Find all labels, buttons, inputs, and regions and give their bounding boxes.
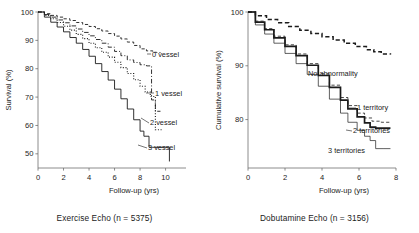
y-tick-label: 90	[235, 61, 243, 70]
y-tick-label: 90	[25, 36, 33, 45]
dobutamine-echo-series-labels: No abnormality1 territory2 territories3 …	[308, 69, 390, 155]
y-tick-label: 80	[235, 115, 243, 124]
y-tick-label: 50	[25, 149, 33, 158]
dobutamine-echo-axes: 809010002468Follow-up (yrs)Cumulative su…	[214, 8, 398, 195]
x-tick-label: 6	[357, 173, 361, 182]
series-label-3-vessel: 3 vessel	[148, 143, 175, 152]
x-tick-label: 6	[112, 173, 116, 182]
x-axis-title: Follow-up (yrs)	[319, 186, 370, 195]
series-label-2-territories: 2 territories	[353, 126, 390, 135]
x-tick-label: 8	[394, 173, 398, 182]
exercise-echo-caption: Exercise Echo (n = 5375)	[0, 213, 209, 223]
x-tick-label: 10	[161, 173, 169, 182]
y-tick-label: 80	[25, 64, 33, 73]
exercise-echo-curves	[38, 12, 169, 161]
dobutamine-echo-caption: Dobutamine Echo (n = 3156)	[210, 213, 419, 223]
exercise-echo-axes: 50607080901000246810Follow-up (yrs)Survi…	[4, 8, 186, 195]
y-axis-title: Cumulative survival (%)	[214, 50, 223, 130]
series-label-2-vessel: 2 vessel	[150, 118, 177, 127]
x-axis-title: Follow-up (yrs)	[109, 186, 160, 195]
series-label-no-abnormality: No abnormality	[308, 69, 358, 78]
exercise-echo-series-labels: 0 vessel1 vessel2 vessel3 vessel	[138, 50, 182, 152]
series-curve-2-vessel	[38, 12, 163, 130]
series-curve-3-vessel	[38, 12, 169, 161]
y-axis-title: Survival (%)	[4, 69, 13, 110]
y-tick-label: 70	[25, 93, 33, 102]
series-label-0-vessel: 0 vessel	[152, 50, 179, 59]
y-tick-label: 100	[21, 8, 34, 17]
panel-dobutamine-echo: 809010002468Follow-up (yrs)Cumulative su…	[210, 0, 419, 233]
x-tick-label: 8	[138, 173, 142, 182]
series-curve-0-vessel	[38, 12, 160, 53]
x-tick-label: 0	[36, 173, 40, 182]
y-tick-label: 100	[231, 8, 244, 17]
x-tick-label: 0	[246, 173, 250, 182]
x-tick-label: 4	[87, 173, 91, 182]
series-curve-1-vessel	[38, 12, 160, 111]
y-tick-label: 60	[25, 121, 33, 130]
series-label-3-territories: 3 territories	[328, 146, 365, 155]
panel-exercise-echo: 50607080901000246810Follow-up (yrs)Survi…	[0, 0, 209, 233]
series-label-1-vessel: 1 vessel	[155, 89, 182, 98]
dobutamine-echo-plot: 809010002468Follow-up (yrs)Cumulative su…	[210, 0, 419, 205]
exercise-echo-plot: 50607080901000246810Follow-up (yrs)Survi…	[0, 0, 209, 205]
x-tick-label: 2	[283, 173, 287, 182]
x-tick-label: 2	[61, 173, 65, 182]
x-tick-label: 4	[320, 173, 324, 182]
figure-container: 50607080901000246810Follow-up (yrs)Survi…	[0, 0, 419, 233]
series-curve-no-abnormality	[248, 12, 390, 55]
series-label-1-territory: 1 territory	[357, 103, 389, 112]
